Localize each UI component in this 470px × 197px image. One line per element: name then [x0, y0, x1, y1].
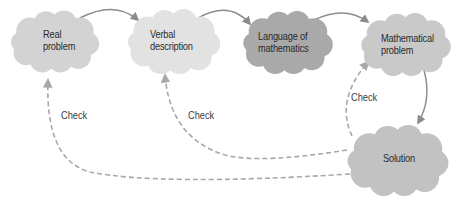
- node-label-line: mathematics: [258, 42, 308, 54]
- node-label-line: Solution: [383, 152, 415, 164]
- node-label-line: Language of: [258, 30, 308, 42]
- node-label-line: problem: [43, 40, 75, 52]
- node-label-line: description: [150, 40, 193, 52]
- check-label-verbal: Check: [188, 109, 214, 121]
- node-label-line: problem: [381, 44, 434, 56]
- node-label-verbal: Verbal description: [150, 28, 193, 52]
- node-label-language: Language of mathematics: [258, 30, 308, 54]
- node-label-line: Verbal: [150, 28, 193, 40]
- check-label-math: Check: [351, 91, 377, 103]
- arrow-language-to-math: [314, 13, 368, 22]
- node-label-line: Real: [43, 28, 75, 40]
- node-label-solution: Solution: [383, 152, 415, 164]
- check-label-real: Check: [61, 109, 87, 121]
- node-label-real: Real problem: [43, 28, 75, 52]
- node-label-math: Mathematical problem: [381, 32, 434, 56]
- arrow-real-to-verbal: [80, 9, 138, 20]
- node-label-line: Mathematical: [381, 32, 434, 44]
- arrow-math-to-solution: [418, 70, 427, 123]
- check-solution-to-real: [48, 80, 350, 180]
